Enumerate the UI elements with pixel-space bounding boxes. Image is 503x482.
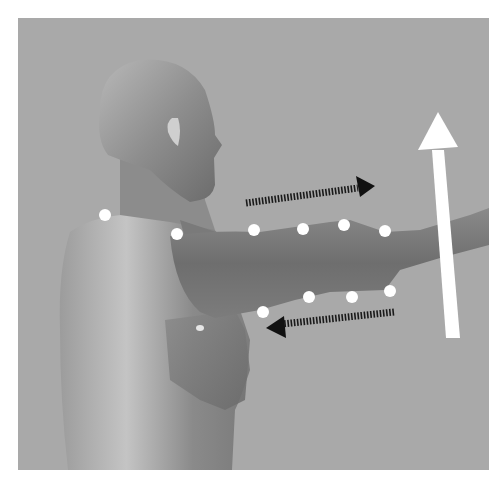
marker-dot-torso (196, 325, 204, 331)
marker-dot (384, 285, 396, 297)
marker-dot (338, 219, 350, 231)
marker-dot (346, 291, 358, 303)
marker-dot (379, 225, 391, 237)
figure-canvas (0, 0, 503, 482)
marker-dot (257, 306, 269, 318)
marker-dot (297, 223, 309, 235)
marker-dot (248, 224, 260, 236)
marker-dot (99, 209, 111, 221)
marker-dot (303, 291, 315, 303)
marker-dot (171, 228, 183, 240)
